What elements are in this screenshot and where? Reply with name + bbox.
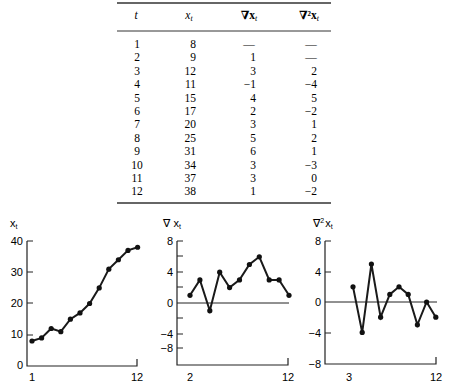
chart2-yticks	[177, 241, 183, 348]
data-point	[29, 338, 34, 343]
series-line	[353, 264, 436, 332]
data-point	[286, 293, 291, 298]
data-point	[350, 284, 355, 289]
data-point	[97, 285, 102, 290]
data-point	[116, 257, 121, 262]
svg-text:20: 20	[11, 297, 23, 309]
svg-text:30: 30	[11, 266, 23, 278]
chart2-xtick-left: 2	[187, 371, 193, 383]
chart3-ylabel: ∇2xt	[312, 217, 333, 230]
data-point	[87, 301, 92, 306]
svg-text:40: 40	[11, 235, 23, 247]
data-point	[433, 315, 438, 320]
chart3-xtick-right: 12	[430, 371, 442, 383]
data-point	[369, 261, 374, 266]
chart2-series	[187, 254, 291, 313]
chart-second-difference: ∇2xt 8 4 0 −4 −8 3 12	[308, 217, 442, 383]
data-point	[217, 270, 222, 275]
data-point	[257, 254, 262, 259]
chart1-ylabel: xt	[10, 217, 18, 230]
svg-text:8: 8	[315, 235, 321, 247]
data-point	[68, 317, 73, 322]
data-point	[58, 329, 63, 334]
data-point	[387, 292, 392, 297]
chart1-xtick-right: 12	[131, 371, 143, 383]
svg-text:4: 4	[167, 266, 173, 278]
svg-text:0: 0	[167, 297, 173, 309]
charts-area: xt 40 30 20 10 0 1 12 ∇ xt 8 4 0	[0, 0, 450, 388]
data-point	[39, 335, 44, 340]
chart3-xtick-left: 3	[346, 371, 352, 383]
svg-text:−4: −4	[308, 327, 321, 339]
data-point	[378, 315, 383, 320]
svg-text:−8: −8	[160, 342, 173, 354]
chart2-ytick-labels: 8 4 0 −4 −8	[160, 235, 173, 354]
chart3-ytick-labels: 8 4 0 −4 −8	[308, 235, 321, 370]
svg-text:8: 8	[167, 235, 173, 247]
data-point	[237, 277, 242, 282]
data-point	[396, 284, 401, 289]
chart-xt: xt 40 30 20 10 0 1 12	[10, 217, 143, 383]
chart2-xtick-right: 12	[282, 371, 294, 383]
data-point	[415, 322, 420, 327]
svg-text:0: 0	[315, 296, 321, 308]
data-point	[77, 310, 82, 315]
chart3-series	[350, 261, 438, 335]
data-point	[267, 277, 272, 282]
svg-text:−8: −8	[308, 358, 321, 370]
series-line	[32, 247, 138, 341]
data-point	[197, 277, 202, 282]
data-point	[207, 308, 212, 313]
chart-first-difference: ∇ xt 8 4 0 −4 −8 2 12	[160, 217, 294, 383]
svg-text:10: 10	[11, 328, 23, 340]
data-point	[360, 330, 365, 335]
chart2-ylabel: ∇ xt	[162, 217, 181, 230]
svg-text:0: 0	[17, 359, 23, 371]
chart1-ytick-labels: 40 30 20 10 0	[11, 235, 23, 371]
data-point	[277, 277, 282, 282]
data-point	[125, 248, 130, 253]
chart1-yticks	[27, 241, 33, 335]
data-point	[49, 326, 54, 331]
data-point	[187, 293, 192, 298]
svg-text:4: 4	[315, 266, 321, 278]
data-point	[406, 292, 411, 297]
chart1-series	[29, 245, 140, 344]
data-point	[106, 267, 111, 272]
data-point	[135, 245, 140, 250]
svg-text:−4: −4	[160, 328, 173, 340]
chart3-yticks	[325, 241, 331, 333]
data-point	[247, 262, 252, 267]
data-point	[227, 285, 232, 290]
data-point	[424, 299, 429, 304]
chart1-xtick-left: 1	[29, 371, 35, 383]
